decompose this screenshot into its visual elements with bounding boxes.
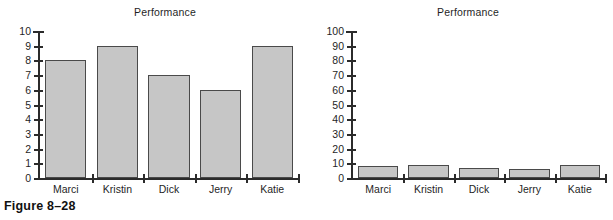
bar xyxy=(560,165,600,178)
x-axis-tick xyxy=(195,174,197,183)
x-axis-category-label: Dick xyxy=(143,183,195,195)
x-axis-category-label: Katie xyxy=(555,183,605,195)
figure-caption: Figure 8–28 xyxy=(4,199,76,213)
figure-container: Performance 012345678910MarciKristinDick… xyxy=(0,0,613,220)
y-axis-tick-label: 9 xyxy=(5,40,31,52)
y-axis-tick xyxy=(347,60,356,62)
y-axis-tick-label: 40 xyxy=(318,113,344,125)
y-axis-tick xyxy=(34,90,43,92)
x-axis-category-label: Jerry xyxy=(195,183,247,195)
y-axis-tick xyxy=(34,46,43,48)
y-axis-tick xyxy=(34,149,43,151)
y-axis-tick-label: 3 xyxy=(5,128,31,140)
x-axis-tick xyxy=(92,174,94,183)
y-axis-tick xyxy=(34,178,43,180)
y-axis-tick-label: 50 xyxy=(318,99,344,111)
y-axis-tick-label: 10 xyxy=(5,25,31,37)
x-axis-category-label: Marci xyxy=(353,183,403,195)
y-axis-tick-label: 10 xyxy=(318,157,344,169)
bar xyxy=(252,46,293,178)
x-axis-tick xyxy=(504,174,506,183)
y-axis-tick xyxy=(346,31,357,33)
plot-area-left: 012345678910MarciKristinDickJerryKatie xyxy=(0,0,306,200)
x-axis-category-label: Marci xyxy=(40,183,92,195)
x-axis-tick xyxy=(143,174,145,183)
y-axis-tick xyxy=(347,90,356,92)
y-axis-tick xyxy=(347,119,356,121)
bar xyxy=(408,165,448,178)
x-axis-tick xyxy=(298,174,300,183)
y-axis-tick xyxy=(34,60,43,62)
y-axis-tick xyxy=(34,119,43,121)
y-axis-tick-label: 5 xyxy=(5,99,31,111)
x-axis-category-label: Kristin xyxy=(92,183,144,195)
y-axis-tick xyxy=(34,75,43,77)
bar xyxy=(97,46,138,178)
bar xyxy=(45,60,86,178)
plot-area-right: 0102030405060708090100MarciKristinDickJe… xyxy=(307,0,613,200)
y-axis-tick xyxy=(33,31,44,33)
x-axis-category-label: Katie xyxy=(246,183,298,195)
y-axis-tick xyxy=(347,178,356,180)
y-axis-tick-label: 0 xyxy=(5,172,31,184)
y-axis-tick-label: 2 xyxy=(5,143,31,155)
x-axis-tick xyxy=(246,174,248,183)
bar xyxy=(459,168,499,178)
y-axis-tick-label: 60 xyxy=(318,84,344,96)
y-axis-tick-label: 6 xyxy=(5,84,31,96)
y-axis-tick xyxy=(347,105,356,107)
x-axis-tick xyxy=(403,174,405,183)
x-axis-line xyxy=(351,178,605,180)
y-axis-tick-label: 0 xyxy=(318,172,344,184)
y-axis-tick-label: 7 xyxy=(5,69,31,81)
y-axis-tick-label: 4 xyxy=(5,113,31,125)
x-axis-category-label: Dick xyxy=(454,183,504,195)
x-axis-category-label: Jerry xyxy=(504,183,554,195)
bar xyxy=(358,166,398,178)
y-axis-tick-label: 20 xyxy=(318,143,344,155)
x-axis-tick xyxy=(605,174,607,183)
y-axis-tick xyxy=(347,75,356,77)
bar xyxy=(148,75,189,178)
bar xyxy=(200,90,241,178)
y-axis-tick xyxy=(347,149,356,151)
bar-chart-left: Performance 012345678910MarciKristinDick… xyxy=(0,0,306,200)
y-axis-tick-label: 80 xyxy=(318,54,344,66)
y-axis-tick xyxy=(34,134,43,136)
y-axis-tick-label: 1 xyxy=(5,157,31,169)
y-axis-tick xyxy=(347,163,356,165)
y-axis-tick-label: 70 xyxy=(318,69,344,81)
bar-chart-right: Performance 0102030405060708090100MarciK… xyxy=(307,0,613,200)
y-axis-tick xyxy=(34,163,43,165)
y-axis-tick xyxy=(347,46,356,48)
y-axis-tick-label: 90 xyxy=(318,40,344,52)
x-axis-line xyxy=(38,178,298,180)
y-axis-tick-label: 30 xyxy=(318,128,344,140)
y-axis-tick xyxy=(347,134,356,136)
x-axis-tick xyxy=(454,174,456,183)
y-axis-tick-label: 100 xyxy=(318,25,344,37)
bar xyxy=(509,169,549,178)
y-axis-tick-label: 8 xyxy=(5,54,31,66)
y-axis-tick xyxy=(34,105,43,107)
x-axis-category-label: Kristin xyxy=(403,183,453,195)
x-axis-tick xyxy=(555,174,557,183)
